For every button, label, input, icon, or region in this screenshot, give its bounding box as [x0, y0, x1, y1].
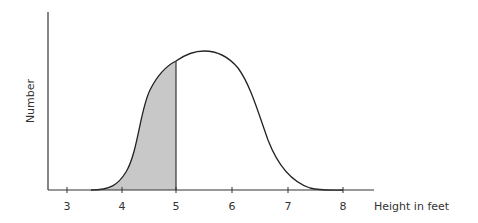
x-tick-label: 7: [285, 200, 292, 213]
shaded-area-below-5ft: [91, 61, 176, 190]
x-tick-label: 6: [229, 200, 236, 213]
x-tick-label: 3: [64, 200, 71, 213]
x-tick-label: 4: [119, 200, 126, 213]
x-tick-label: 8: [340, 200, 347, 213]
y-axis-label: Number: [24, 78, 37, 123]
x-axis-label: Height in feet: [374, 200, 450, 213]
bell-curve-chart: 3 4 5 6 7 8 Height in feet Number: [0, 0, 478, 223]
x-tick-label: 5: [173, 200, 180, 213]
